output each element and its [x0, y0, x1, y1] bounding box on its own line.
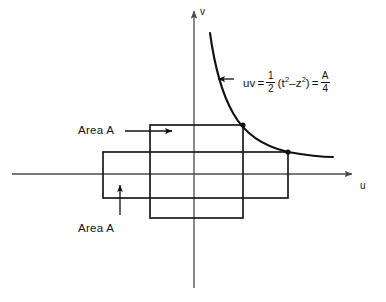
tall-rectangle — [150, 125, 243, 218]
one-half-fraction: 1 2 — [266, 71, 275, 94]
area-label-bottom: Area A — [78, 222, 114, 234]
hyperbola-curve — [210, 33, 333, 157]
equation-equals-2: = — [312, 77, 319, 89]
equation-close-paren: ) — [306, 77, 310, 89]
tangency-point-wide-rect — [285, 149, 290, 154]
hyperbola-area-diagram: v u Area A Area A uv = 1 2 ( t 2 – z 2 )… — [0, 0, 386, 302]
fraction-denominator: 2 — [267, 83, 275, 94]
curve-equation: uv = 1 2 ( t 2 – z 2 ) = A 4 — [243, 71, 332, 94]
result-numerator: A — [321, 71, 330, 82]
a-over-four-fraction: A 4 — [321, 71, 330, 94]
x-axis-label: u — [360, 180, 366, 191]
y-axis-label: v — [200, 6, 205, 17]
equation-lhs: uv — [243, 77, 256, 89]
equation-equals-1: = — [258, 77, 265, 89]
wide-rectangle — [103, 152, 288, 198]
tangency-point-tall-rect — [240, 122, 245, 127]
equation-z-exponent: 2 — [302, 75, 306, 84]
equation-minus: – — [289, 77, 296, 89]
result-denominator: 4 — [321, 83, 329, 94]
area-label-top: Area A — [78, 124, 114, 136]
equation-t-exponent: 2 — [285, 75, 289, 84]
diagram-canvas — [0, 0, 386, 302]
fraction-numerator: 1 — [267, 71, 275, 82]
